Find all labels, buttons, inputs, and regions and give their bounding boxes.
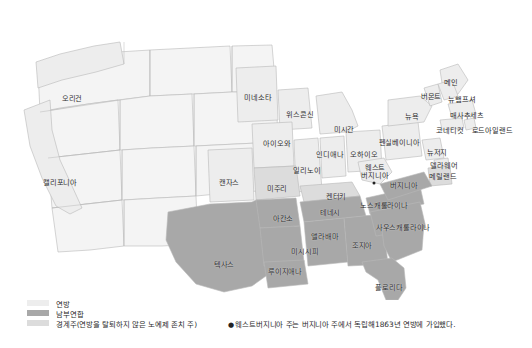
state-label: 버지니아 [390, 182, 417, 189]
state-label: 미시간 [334, 126, 354, 133]
state-label: 펜실베이니아 [379, 139, 420, 146]
state-label: 매사추세츠 [450, 112, 484, 119]
legend-label-border-state: 경계주(연방을 탈퇴하지 않은 노예제 존치 주) [56, 318, 197, 329]
footnote-text: 웨스트버지니아 주는 버지니아 주에서 독립해1863년 연방에 가입했다. [235, 318, 455, 329]
state-label: 아이오와 [263, 140, 290, 147]
state-label: 켄터키 [326, 193, 346, 200]
footnote: ● 웨스트버지니아 주는 버지니아 주에서 독립해1863년 연방에 가입했다. [228, 318, 455, 329]
legend-swatch-confederacy [27, 310, 49, 316]
state-label: 메인 [444, 79, 458, 86]
state-label: 오리건 [62, 95, 82, 102]
state-label: 루이지애나 [268, 268, 302, 275]
state-label: 사우스캐롤라이나 [376, 224, 430, 231]
state-label: 코네티컷 [436, 127, 463, 134]
state-label: 조지아 [352, 242, 372, 249]
state-label: 캘리포니아 [43, 179, 77, 186]
state-label: 위스콘신 [286, 111, 313, 118]
state-label: 플로리다 [375, 284, 402, 291]
state-label: 미네소타 [244, 94, 271, 101]
legend-item-union: 연방 [27, 298, 70, 308]
state-label: 캔자스 [219, 179, 239, 186]
state-label: 테네시 [320, 209, 340, 216]
legend-item-border-state: 경계주(연방을 탈퇴하지 않은 노예제 존치 주) [27, 318, 197, 328]
state-label: 오하이오 [350, 151, 377, 158]
state-label: 버몬트 [421, 93, 441, 100]
state-label: 메릴랜드 [429, 173, 456, 180]
state-label: 일리노이 [293, 167, 320, 174]
state-label: 뉴욕 [405, 113, 419, 120]
state-label: 뉴저지 [427, 149, 447, 156]
state-label: 노스캐롤라이나 [360, 202, 408, 209]
legend-swatch-union [27, 300, 49, 306]
footnote-bullet-icon: ● [228, 321, 234, 329]
legend-swatch-border-state [27, 320, 49, 326]
state-label: 앨라배마 [311, 233, 338, 240]
united-states-map: .st { stroke: #b9b9b9; stroke-width: 0.6… [0, 0, 532, 300]
state-label: 인디애나 [316, 151, 343, 158]
legend-item-confederacy: 남부연합 [27, 308, 84, 318]
state-label: 로드아일랜드 [472, 127, 513, 134]
state-label: 텍사스 [214, 261, 234, 268]
state-label: 웨스트 버지니아 [361, 164, 388, 179]
state-label: 미시시피 [291, 248, 318, 255]
capital-marker-icon [373, 182, 376, 185]
us-civil-war-map-figure: .st { stroke: #b9b9b9; stroke-width: 0.6… [0, 0, 532, 348]
map-area: .st { stroke: #b9b9b9; stroke-width: 0.6… [0, 0, 532, 300]
state-label: 미주리 [267, 185, 287, 192]
state-label: 아칸소 [273, 215, 293, 222]
state-label: 뉴햄프셔 [448, 96, 475, 103]
state-label: 델라웨어 [430, 162, 457, 169]
